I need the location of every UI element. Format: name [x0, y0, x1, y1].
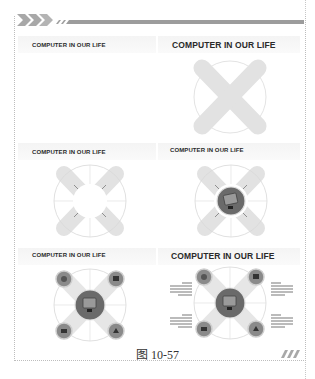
panel-2: COMPUTER IN OUR LIFE — [158, 36, 300, 136]
panel-title: COMPUTER IN OUR LIFE — [171, 251, 275, 261]
x-band-diagram — [190, 56, 270, 136]
full-icons-diagram — [50, 266, 130, 344]
panel-title: COMPUTER IN OUR LIFE — [172, 40, 276, 50]
panel-title: COMPUTER IN OUR LIFE — [170, 147, 244, 153]
text-block-bottom-right — [271, 314, 293, 329]
gamepad-icon — [61, 329, 67, 333]
panel-1: COMPUTER IN OUR LIFE — [18, 36, 156, 136]
panel-title: COMPUTER IN OUR LIFE — [32, 252, 106, 258]
panel-6: COMPUTER IN OUR LIFE — [158, 248, 300, 342]
center-computer-diagram — [191, 162, 271, 240]
header-chevron-bar — [0, 11, 305, 29]
panel-5: COMPUTER IN OUR LIFE — [18, 248, 156, 342]
text-block-top-right — [271, 282, 293, 297]
text-block-top-left — [170, 282, 192, 297]
globe-icon — [61, 276, 67, 282]
panel-3: COMPUTER IN OUR LIFE — [18, 143, 156, 240]
final-infographic-diagram — [190, 264, 270, 342]
panel-4: COMPUTER IN OUR LIFE — [158, 143, 300, 240]
camera-icon — [113, 276, 119, 281]
ring-cross-diagram — [50, 162, 130, 240]
text-block-bottom-left — [170, 314, 192, 329]
panel-title: COMPUTER IN OUR LIFE — [32, 149, 106, 155]
figure-caption: 图 10-57 — [0, 345, 315, 363]
panel-title: COMPUTER IN OUR LIFE — [32, 42, 106, 48]
decorative-stripes-icon — [278, 350, 302, 358]
